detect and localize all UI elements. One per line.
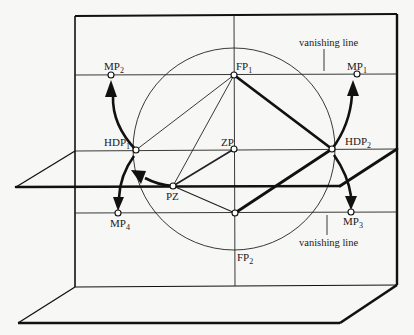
label-mp3: MP3	[343, 215, 363, 230]
label-mp2: MP2	[104, 60, 124, 75]
point-mp4	[115, 210, 121, 216]
label-zp: ZP	[221, 136, 234, 148]
label-fp1: FP1	[236, 60, 252, 75]
annotation-vanishing-line-bottom: vanishing line	[299, 237, 359, 248]
label-fp2: FP2	[237, 251, 253, 266]
annotation-vanishing-line-top: vanishing line	[299, 37, 359, 48]
arrow-hdp1-to-mp4	[119, 156, 134, 198]
perspective-diagram: FP1 MP2 MP1 HDP1 ZP HDP2 PZ MP4 MP3 FP2 …	[0, 0, 414, 335]
point-hdp1	[133, 147, 139, 153]
arrowhead-mp3	[345, 196, 357, 210]
point-hdp2	[329, 146, 335, 152]
thick-diagonals	[234, 75, 332, 213]
label-pz: PZ	[166, 190, 179, 202]
arrowhead-mp2	[105, 80, 117, 97]
label-hdp2: HDP2	[345, 135, 371, 150]
point-pz	[170, 183, 176, 189]
arrow-pz-to-hdp1	[145, 178, 173, 186]
label-mp4: MP4	[110, 217, 130, 232]
arrow-hdp2-to-mp3	[334, 155, 351, 196]
point-mp2	[108, 72, 114, 78]
point-fp2-projection	[232, 210, 238, 216]
diagram-canvas: FP1 MP2 MP1 HDP1 ZP HDP2 PZ MP4 MP3 FP2 …	[0, 0, 414, 335]
point-fp1	[231, 72, 237, 78]
ground-plane	[18, 285, 397, 323]
arrowhead-mp4	[113, 197, 124, 211]
arrowhead-mp1	[347, 80, 359, 96]
horizontal-plane	[16, 149, 397, 187]
